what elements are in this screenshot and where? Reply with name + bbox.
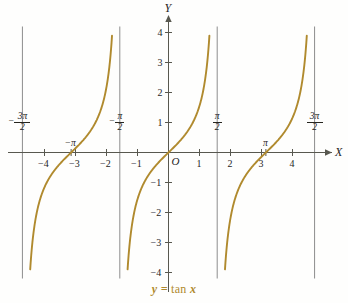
y-tick-label: 1 [158,118,163,128]
asymptote-label-three-pi-over-two: 3π2 [307,112,323,132]
fraction-denominator: 2 [14,122,30,133]
fraction-denominator: 2 [213,122,222,133]
y-tick-label: −4 [151,268,162,278]
x-label-neg-pi: −π [65,139,76,149]
y-axis-label: Y [165,2,172,14]
fraction-numerator: π [115,112,124,122]
y-axis-arrowhead [165,15,171,22]
fraction-numerator: π [213,112,222,122]
x-tick-label: 1 [197,159,202,169]
x-tick-label: 2 [228,159,233,169]
fraction-numerator: 3π [307,112,323,122]
caption-function-name: tan [171,282,187,296]
x-axis-label: X [335,146,342,158]
x-tick-label: −3 [69,159,80,169]
fraction-minus-sign: − [8,117,13,127]
asymptote-label-neg-pi-over-two: π2− [115,112,124,132]
fraction-numerator: 3π [14,112,30,122]
y-tick-label: −2 [151,208,162,218]
x-tick-label: −4 [38,159,49,169]
x-label-pi: π [263,139,268,149]
x-tick-label: −2 [100,159,111,169]
fraction-denominator: 2 [115,122,124,133]
origin-label: O [172,156,180,167]
caption-lhs: y = [152,282,168,296]
y-tick-label: −1 [151,178,162,188]
figure-caption: y = tan x [0,282,348,297]
y-tick-label: −3 [151,238,162,248]
x-tick-label: 3 [259,159,264,169]
x-tick-label: 4 [290,159,295,169]
fraction-minus-sign: − [109,117,114,127]
asymptote-label-pi-over-two: π2 [213,112,222,132]
fraction-denominator: 2 [307,122,323,133]
y-tick-label: 3 [158,58,163,68]
asymptote-label-neg-three-pi-over-two: 3π2− [14,112,30,132]
caption-variable: x [190,282,196,296]
axes-group [8,15,332,292]
x-tick-label: −1 [131,159,142,169]
figure-canvas: Y X O −4−3−2−112344321−1−2−3−4 3π2−π2−π2… [0,0,348,303]
y-tick-label: 4 [158,28,163,38]
y-tick-label: 2 [158,88,163,98]
x-axis-arrowhead [325,149,332,155]
tangent-function-plot [0,0,348,303]
